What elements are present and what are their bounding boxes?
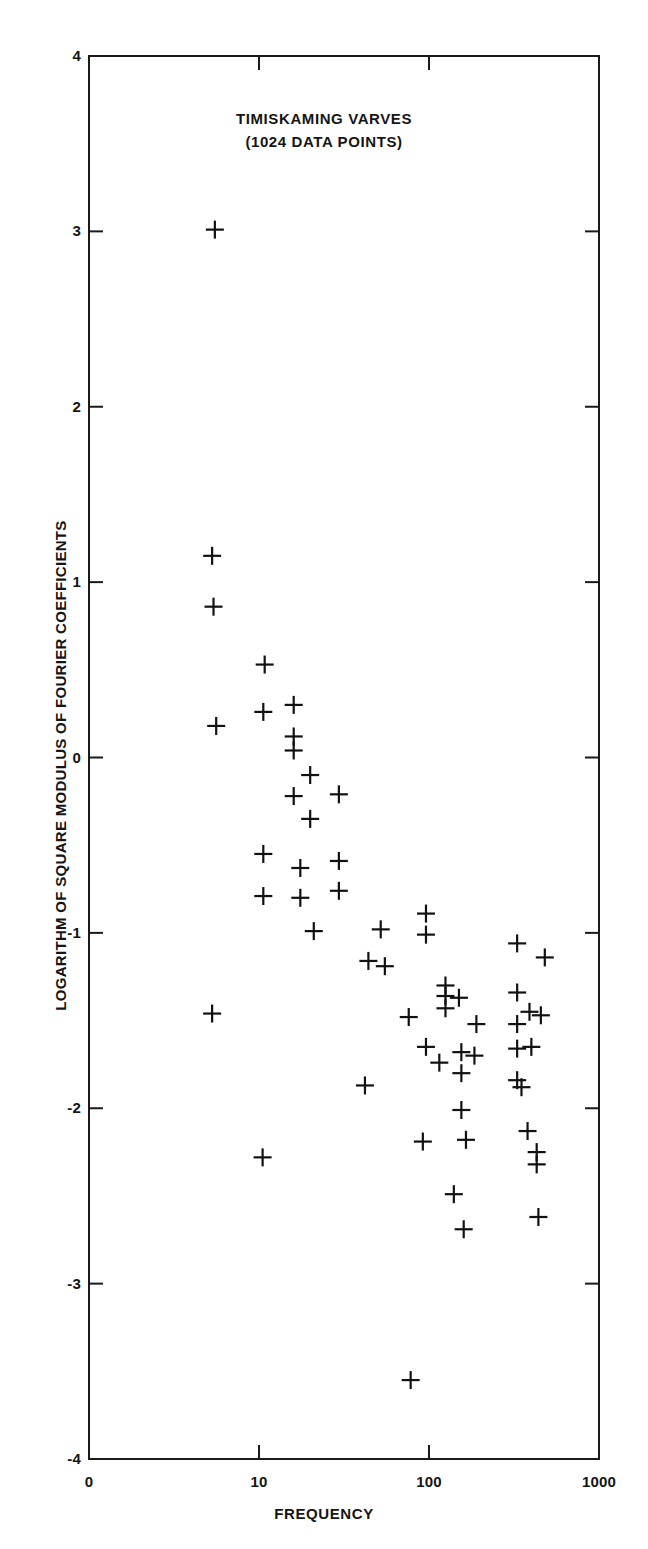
y-tick-label: 3 (41, 222, 81, 239)
chart-title: TIMISKAMING VARVES (0, 110, 648, 127)
figure-container: TIMISKAMING VARVES (1024 DATA POINTS) LO… (0, 0, 648, 1549)
y-tick-label: -1 (41, 924, 81, 941)
scatter-plot-canvas (0, 0, 648, 1549)
y-tick-label: 2 (41, 398, 81, 415)
y-tick-label: 1 (41, 573, 81, 590)
x-axis-label: FREQUENCY (0, 1505, 648, 1522)
x-tick-label: 1000 (569, 1473, 629, 1490)
x-tick-label: 100 (399, 1473, 459, 1490)
y-axis-label: LOGARITHM OF SQUARE MODULUS OF FOURIER C… (52, 466, 69, 1066)
y-tick-label: -2 (41, 1099, 81, 1116)
chart-subtitle: (1024 DATA POINTS) (0, 133, 648, 150)
x-tick-label: 10 (229, 1473, 289, 1490)
y-tick-label: -3 (41, 1275, 81, 1292)
x-tick-label: 0 (59, 1473, 119, 1490)
y-tick-label: 4 (41, 47, 81, 64)
y-tick-label: -4 (41, 1450, 81, 1467)
y-tick-label: 0 (41, 749, 81, 766)
axes-frame (89, 56, 599, 1459)
